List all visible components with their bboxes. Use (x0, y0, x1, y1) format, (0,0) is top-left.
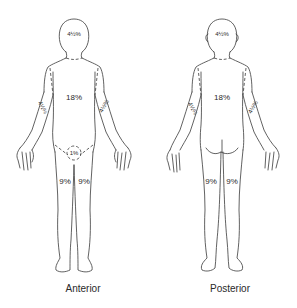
anterior-left-leg-label: 9% (78, 178, 90, 186)
posterior-head-label: 4½% (215, 31, 229, 37)
anterior-figure (17, 19, 131, 272)
anterior-caption: Anterior (65, 283, 100, 294)
anterior-head-label: 4½% (67, 31, 81, 37)
posterior-left-leg (201, 150, 221, 271)
anterior-left-hand (115, 148, 132, 170)
anterior-torso-sides (53, 72, 96, 152)
anterior-right-leg-label: 9% (59, 178, 71, 186)
posterior-torso-sides (200, 72, 244, 150)
anterior-right-shoulder-line (50, 68, 53, 95)
anterior-neck-left (66, 52, 67, 58)
posterior-left-arm (170, 92, 201, 150)
posterior-right-leg (223, 150, 243, 271)
anterior-right-arm (20, 92, 53, 150)
anterior-neck-line (66, 58, 82, 60)
anterior-right-leg (55, 152, 74, 272)
posterior-buttocks (206, 140, 238, 154)
posterior-trunk-label: 18% (214, 94, 230, 102)
posterior-caption: Posterior (210, 283, 250, 294)
anterior-right-hand (17, 148, 34, 170)
posterior-left-leg-label: 9% (205, 178, 217, 186)
posterior-right-shoulder-line (243, 68, 246, 95)
anterior-trunk-label: 18% (66, 94, 82, 102)
posterior-right-arm (243, 92, 276, 150)
anterior-left-leg (74, 152, 93, 272)
posterior-left-hand (167, 150, 180, 172)
body-diagram (0, 0, 297, 308)
anterior-head-outline (59, 19, 89, 58)
posterior-figure (167, 19, 279, 271)
posterior-right-leg-label: 9% (226, 178, 238, 186)
posterior-neck-line (214, 58, 230, 60)
posterior-right-hand (265, 148, 279, 170)
anterior-left-arm (95, 92, 128, 150)
posterior-neck (214, 52, 230, 58)
posterior-left-shoulder-line (198, 68, 201, 95)
anterior-genitalia-label: 1% (70, 150, 79, 156)
anterior-left-shoulder-line (95, 68, 98, 95)
